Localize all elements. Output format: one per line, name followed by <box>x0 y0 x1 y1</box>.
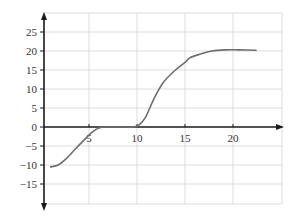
x-tick-label: 10 <box>132 132 144 144</box>
y-tick-label: 20 <box>26 45 38 57</box>
grid <box>44 13 282 204</box>
line-chart: 2520151050−5−10−155101520 <box>0 0 297 221</box>
y-tick-label: −10 <box>20 159 38 171</box>
y-tick-label: −15 <box>20 178 38 190</box>
y-axis-arrow-down-icon <box>41 203 47 211</box>
axes <box>41 12 284 211</box>
y-tick-label: −5 <box>25 140 37 152</box>
y-tick-label: 0 <box>32 121 38 133</box>
y-tick-label: 10 <box>26 83 38 95</box>
y-tick-label: 5 <box>32 102 38 114</box>
y-tick-label: 25 <box>26 26 38 38</box>
x-tick-label: 15 <box>180 132 192 144</box>
y-tick-label: 15 <box>26 64 38 76</box>
x-tick-label: 20 <box>228 132 240 144</box>
x-axis-arrow-icon <box>276 124 284 130</box>
